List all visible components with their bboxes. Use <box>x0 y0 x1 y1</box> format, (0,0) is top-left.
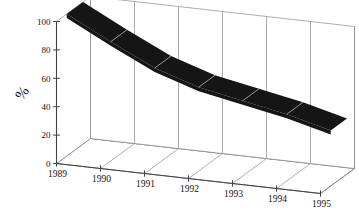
x-axis-tick-label: 1990 <box>92 174 111 184</box>
y-axis-tick-labels: 020406080100 <box>37 17 51 169</box>
y-axis-tick-label: 0 <box>46 159 51 169</box>
x-axis-tick-label: 1992 <box>180 184 199 194</box>
y-axis-tick-label: 80 <box>42 45 52 55</box>
y-axis-tick-label: 40 <box>42 102 52 112</box>
x-axis-tick-label: 1994 <box>268 194 287 204</box>
y-axis-title: % <box>12 83 32 102</box>
y-axis: 020406080100 % <box>12 17 60 169</box>
area-chart-3d: 020406080100 % 1989199019911992199319941… <box>0 0 359 223</box>
x-axis-tick-label: 1995 <box>312 199 331 209</box>
y-axis-tick-label: 100 <box>37 17 51 27</box>
x-axis-tick-label: 1991 <box>136 179 155 189</box>
y-axis-tick-label: 60 <box>42 74 52 84</box>
y-axis-tick-label: 20 <box>42 130 52 140</box>
chart-container: 020406080100 % 1989199019911992199319941… <box>0 0 359 223</box>
x-axis-tick-label: 1989 <box>48 169 67 179</box>
x-axis-tick-label: 1993 <box>224 189 243 199</box>
